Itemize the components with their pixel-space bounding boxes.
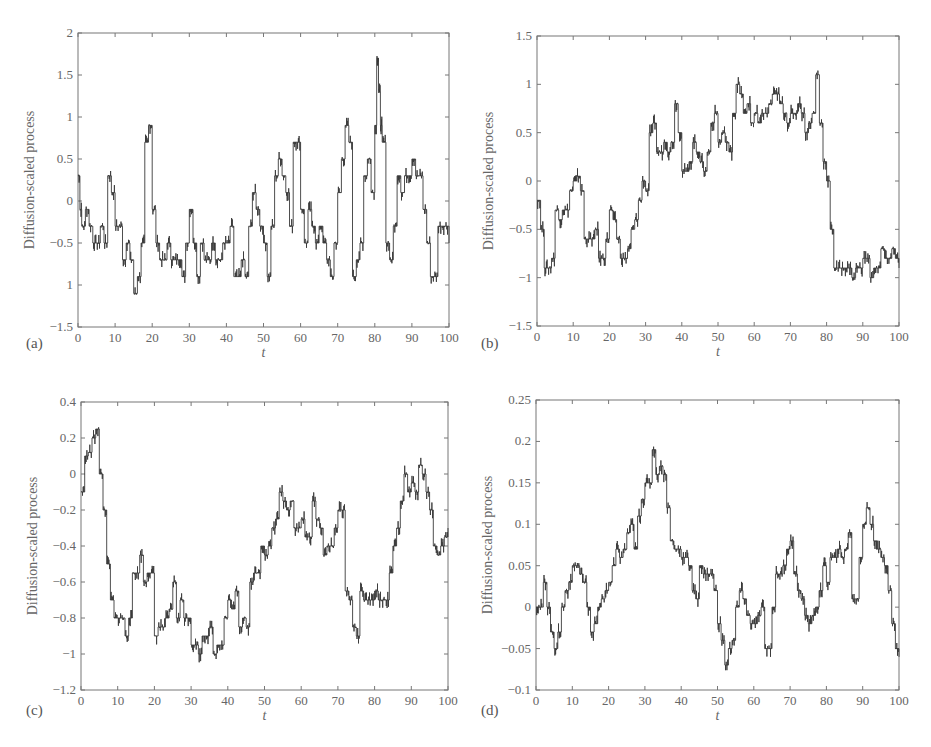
diffusion-series <box>536 447 899 671</box>
x-axis-label: t <box>716 708 721 723</box>
x-tick-label: 70 <box>784 693 797 708</box>
y-tick-label: 0.25 <box>508 392 531 407</box>
y-tick-label: 0.15 <box>508 475 531 490</box>
x-tick-label: 30 <box>638 693 651 708</box>
x-tick-label: 0 <box>533 693 540 708</box>
x-tick-label: 80 <box>820 693 833 708</box>
y-tick-label: 0.05 <box>508 558 531 573</box>
plot-frame <box>536 400 899 690</box>
x-tick-label: 60 <box>747 693 760 708</box>
y-axis-label: Diffusion-scaled process <box>480 476 495 615</box>
plot-d: 0102030405060708090100−0.1−0.0500.050.10… <box>0 0 931 747</box>
x-tick-label: 20 <box>602 693 615 708</box>
panel-label-d: (d) <box>481 702 499 719</box>
x-tick-label: 90 <box>856 693 869 708</box>
y-tick-label: −0.1 <box>507 682 531 697</box>
y-tick-label: 0.1 <box>515 516 531 531</box>
x-tick-label: 40 <box>675 693 688 708</box>
x-tick-label: 100 <box>889 693 909 708</box>
x-tick-label: 50 <box>711 693 724 708</box>
x-tick-label: 10 <box>566 693 579 708</box>
y-tick-label: 0 <box>525 599 532 614</box>
chart-panel-d: 0102030405060708090100−0.1−0.0500.050.10… <box>0 0 931 747</box>
y-tick-label: −0.05 <box>501 641 531 656</box>
y-tick-label: 0.2 <box>515 433 531 448</box>
